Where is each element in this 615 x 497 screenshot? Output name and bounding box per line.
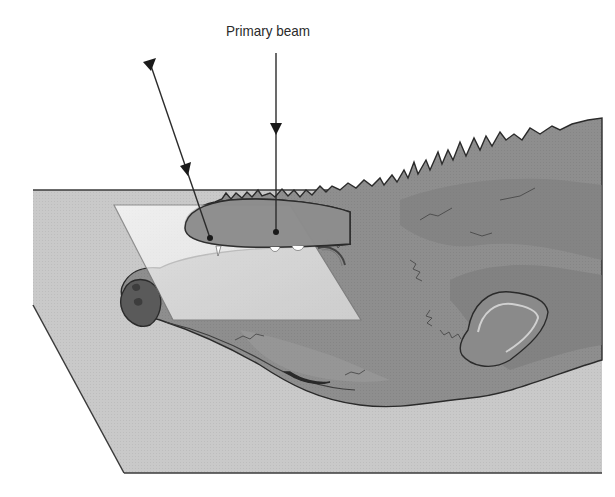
primary-beam-label: Primary beam bbox=[226, 22, 310, 39]
illustration bbox=[0, 0, 615, 497]
radiography-diagram: Primary beam bbox=[0, 0, 615, 497]
